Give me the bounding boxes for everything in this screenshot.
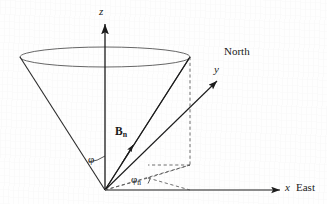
z-axis-label: z bbox=[99, 6, 103, 17]
cone-edge-left bbox=[20, 57, 105, 190]
bn-vector-subscript: n bbox=[123, 130, 127, 139]
north-annotation-label: North bbox=[224, 46, 250, 57]
azimuth-angle-label: φn bbox=[131, 174, 141, 186]
east-annotation-label: East bbox=[296, 182, 315, 193]
polar-angle-label: φ bbox=[88, 154, 94, 165]
bn-vector-line bbox=[105, 57, 190, 190]
bn-vector-arrowhead bbox=[122, 145, 133, 163]
projection-foot-to-x-axis bbox=[148, 178, 190, 190]
bn-vector-label: Bn bbox=[115, 126, 127, 139]
azimuth-angle-subscript: n bbox=[137, 178, 141, 187]
azimuth-angle-arc bbox=[148, 179, 150, 184]
coordinate-system-diagram bbox=[0, 0, 327, 204]
y-axis-label: y bbox=[214, 64, 219, 75]
figure-root: z North y Bn φ φn x East bbox=[0, 0, 327, 204]
x-axis-label: x bbox=[285, 182, 290, 193]
bn-vector-symbol: B bbox=[115, 125, 123, 137]
